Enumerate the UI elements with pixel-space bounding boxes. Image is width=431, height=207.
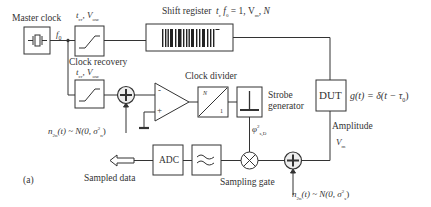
n-symbol: , N — [259, 6, 270, 16]
amplitude-label: Amplitude — [332, 122, 373, 132]
sampling-gate-label: Sampling gate — [220, 178, 275, 188]
sampled-data-label: Sampled data — [84, 174, 135, 184]
vosc-symbol: , V — [82, 10, 92, 20]
clock-recovery-box — [75, 80, 104, 108]
vm-symbol: = 1, V — [228, 6, 254, 16]
strobe-output-label: φ2s,D — [252, 124, 266, 136]
block-diagram — [0, 0, 431, 207]
g-t-text: g(t) = δ(t − τ — [350, 90, 402, 101]
adc-label: ADC — [159, 156, 179, 166]
clock-generator-box — [75, 26, 104, 56]
noise-close: ) — [346, 189, 349, 199]
shift-register-text: Shift register — [162, 6, 211, 16]
clock-gen-params: tcr, Vosc — [76, 11, 99, 22]
vosc-sub: osc — [92, 17, 99, 22]
comparator-plus: + — [157, 106, 162, 115]
divider-n: N — [203, 90, 207, 96]
clock-noise-label: n2n(t) ~ N(0, σ2n) — [48, 126, 106, 138]
phi-sup: 2 — [257, 124, 260, 129]
f0-sub: 0 — [59, 35, 62, 41]
signal-noise-label: n2n(t) ~ N(0, σ2s) — [292, 189, 349, 201]
impulse-response-label: g(t) = δ(t − τ0) — [350, 91, 409, 103]
dut-label: DUT — [319, 90, 342, 101]
vosc-symbol: , V — [82, 67, 92, 77]
noise-close: ) — [103, 126, 106, 136]
divider-1: 1 — [220, 108, 223, 114]
noise-dist: (t) ~ N(0, σ — [58, 126, 98, 136]
strobe-label: Strobe — [268, 91, 293, 101]
sigma-sup: 2 — [342, 189, 345, 194]
clock-divider-label: Clock divider — [185, 72, 237, 82]
noise-dist: (t) ~ N(0, σ — [302, 189, 342, 199]
generator-label: generator — [268, 102, 304, 112]
clock-recovery-params: tcr, Vosc — [76, 68, 99, 79]
output-arrow-icon — [110, 155, 134, 166]
sigma-sup: 2 — [98, 126, 101, 131]
phi-sub: s,D — [259, 131, 266, 136]
shift-register-label: Shift register tc f0 = 1, Vm, N — [162, 7, 270, 18]
vm-sub: m — [342, 144, 346, 149]
g-t-close: ) — [405, 90, 408, 101]
f0-label: f0 — [56, 30, 62, 41]
vosc-sub: osc — [92, 74, 99, 79]
filter-box — [192, 145, 221, 175]
vm-label: Vm — [336, 138, 345, 149]
comparator-minus: - — [158, 86, 161, 95]
panel-label: (a) — [23, 176, 34, 186]
master-clock-label: Master clock — [12, 14, 61, 24]
